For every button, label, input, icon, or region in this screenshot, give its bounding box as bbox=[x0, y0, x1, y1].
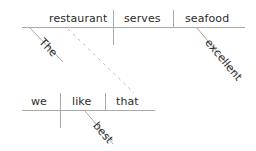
word-serves: serves bbox=[124, 13, 161, 24]
dashed-connector-line bbox=[68, 29, 134, 93]
word-restaurant: restaurant bbox=[49, 13, 107, 24]
word-we: we bbox=[31, 96, 47, 107]
word-seafood: seafood bbox=[185, 13, 229, 24]
sentence-diagram: restaurant serves seafood The excellent … bbox=[0, 0, 256, 151]
word-that: that bbox=[116, 96, 139, 107]
word-like: like bbox=[72, 96, 91, 107]
